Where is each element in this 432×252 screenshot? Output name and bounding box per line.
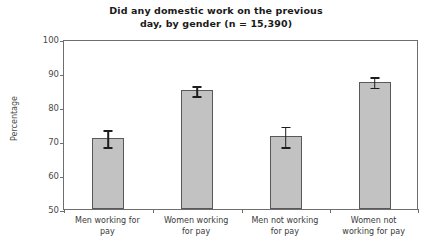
error-bar-line — [285, 127, 287, 147]
error-bar-cap-upper — [370, 77, 379, 79]
y-tick-label: 100 — [43, 35, 59, 45]
x-tick-mark — [418, 209, 419, 213]
bar — [270, 136, 302, 209]
x-tick-mark — [153, 209, 154, 213]
error-bar-cap-lower — [370, 88, 379, 90]
x-axis-label: Men working forpay — [63, 215, 152, 251]
error-bar-cap-lower — [193, 96, 202, 98]
y-tick-label: 60 — [48, 171, 59, 181]
x-axis-label-line: for pay — [154, 226, 239, 237]
x-axis-label-line: Women not — [331, 215, 416, 226]
error-bar-line — [108, 130, 110, 147]
bar — [92, 138, 124, 209]
x-tick-mark — [330, 209, 331, 213]
y-axis-label: Percentage — [10, 79, 19, 159]
bar-group — [330, 41, 419, 209]
x-axis-labels: Men working forpayWomen workingfor payMe… — [63, 215, 418, 251]
error-bar-cap-lower — [281, 147, 290, 149]
y-tick-label: 70 — [48, 137, 59, 147]
error-bar-cap-lower — [104, 147, 113, 149]
y-tick-label: 50 — [48, 205, 59, 215]
x-axis-label-line: Men not working — [243, 215, 328, 226]
error-bar-cap-upper — [104, 130, 113, 132]
x-axis-label: Women workingfor pay — [152, 215, 241, 251]
x-tick-mark — [64, 209, 65, 213]
chart-figure: Did any domestic work on the previous da… — [0, 0, 432, 252]
x-tick-mark — [242, 209, 243, 213]
bar-group — [242, 41, 331, 209]
x-axis-label-line: pay — [65, 226, 150, 237]
x-axis-label-line: for pay — [243, 226, 328, 237]
chart-title-line-2: day, by gender (n = 15,390) — [0, 18, 432, 31]
bar-group — [64, 41, 153, 209]
x-axis-label-line: Women working — [154, 215, 239, 226]
error-bar-cap-upper — [281, 127, 290, 129]
bar — [359, 82, 391, 210]
bar-group — [153, 41, 242, 209]
x-axis-label-line: working for pay — [331, 226, 416, 237]
bar-series — [64, 41, 417, 209]
x-axis-label-line: Men working for — [65, 215, 150, 226]
error-bar-cap-upper — [193, 86, 202, 88]
chart-title: Did any domestic work on the previous da… — [0, 5, 432, 30]
x-axis-label: Men not workingfor pay — [241, 215, 330, 251]
chart-title-line-1: Did any domestic work on the previous — [0, 5, 432, 18]
x-axis-label: Women notworking for pay — [329, 215, 418, 251]
bar — [181, 90, 213, 209]
plot-area: 1009080706050 — [63, 40, 418, 210]
y-tick-label: 80 — [48, 103, 59, 113]
y-tick-label: 90 — [48, 69, 59, 79]
